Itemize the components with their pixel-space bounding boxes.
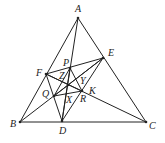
point-A [77, 17, 80, 20]
point-O [67, 84, 70, 87]
point-C [145, 121, 148, 124]
label-Q: Q [42, 88, 50, 99]
point-D [61, 120, 64, 123]
label-D: D [58, 125, 67, 136]
label-A: A [74, 3, 82, 14]
label-R: R [79, 93, 86, 104]
point-E [102, 57, 105, 60]
label-Z: Z [59, 70, 65, 81]
point-F [45, 73, 48, 76]
point-Q [53, 95, 56, 98]
point-R [81, 90, 84, 93]
geometry-diagram: ABCDEFPQRKXYZ [0, 0, 165, 143]
label-B: B [10, 118, 16, 129]
label-P: P [62, 57, 69, 68]
label-X: X [65, 94, 73, 105]
point-B [19, 121, 22, 124]
label-E: E [107, 47, 114, 58]
label-C: C [149, 120, 156, 131]
label-K: K [88, 85, 97, 96]
label-F: F [35, 67, 43, 78]
